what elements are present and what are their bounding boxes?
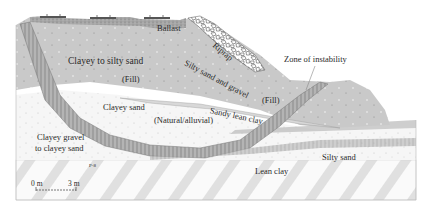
label-ballast: Ballast [157,24,181,33]
cross-section-diagram [0,0,444,207]
label-boring-marker: P-8 [89,163,96,168]
label-fill-right: (Fill) [262,96,279,105]
label-clayey-gravel-line2: to clayey sand [35,144,84,153]
label-clayey-gravel-line1: Clayey gravel [37,133,84,142]
label-clayey-to-silty-sand: Clayey to silty sand [68,57,143,67]
label-clayey-sand: Clayey sand [103,103,145,112]
label-silty-sand: Silty sand [322,153,356,162]
label-zone-of-instability: Zone of instability [284,55,347,64]
label-lean-clay: Lean clay [255,167,288,176]
label-fill-upper: (Fill) [122,75,139,84]
label-natural-alluvial: (Natural/alluvial) [154,116,213,125]
scale-start-label: 0 m [31,180,42,188]
scale-end-label: 3 m [68,180,79,188]
